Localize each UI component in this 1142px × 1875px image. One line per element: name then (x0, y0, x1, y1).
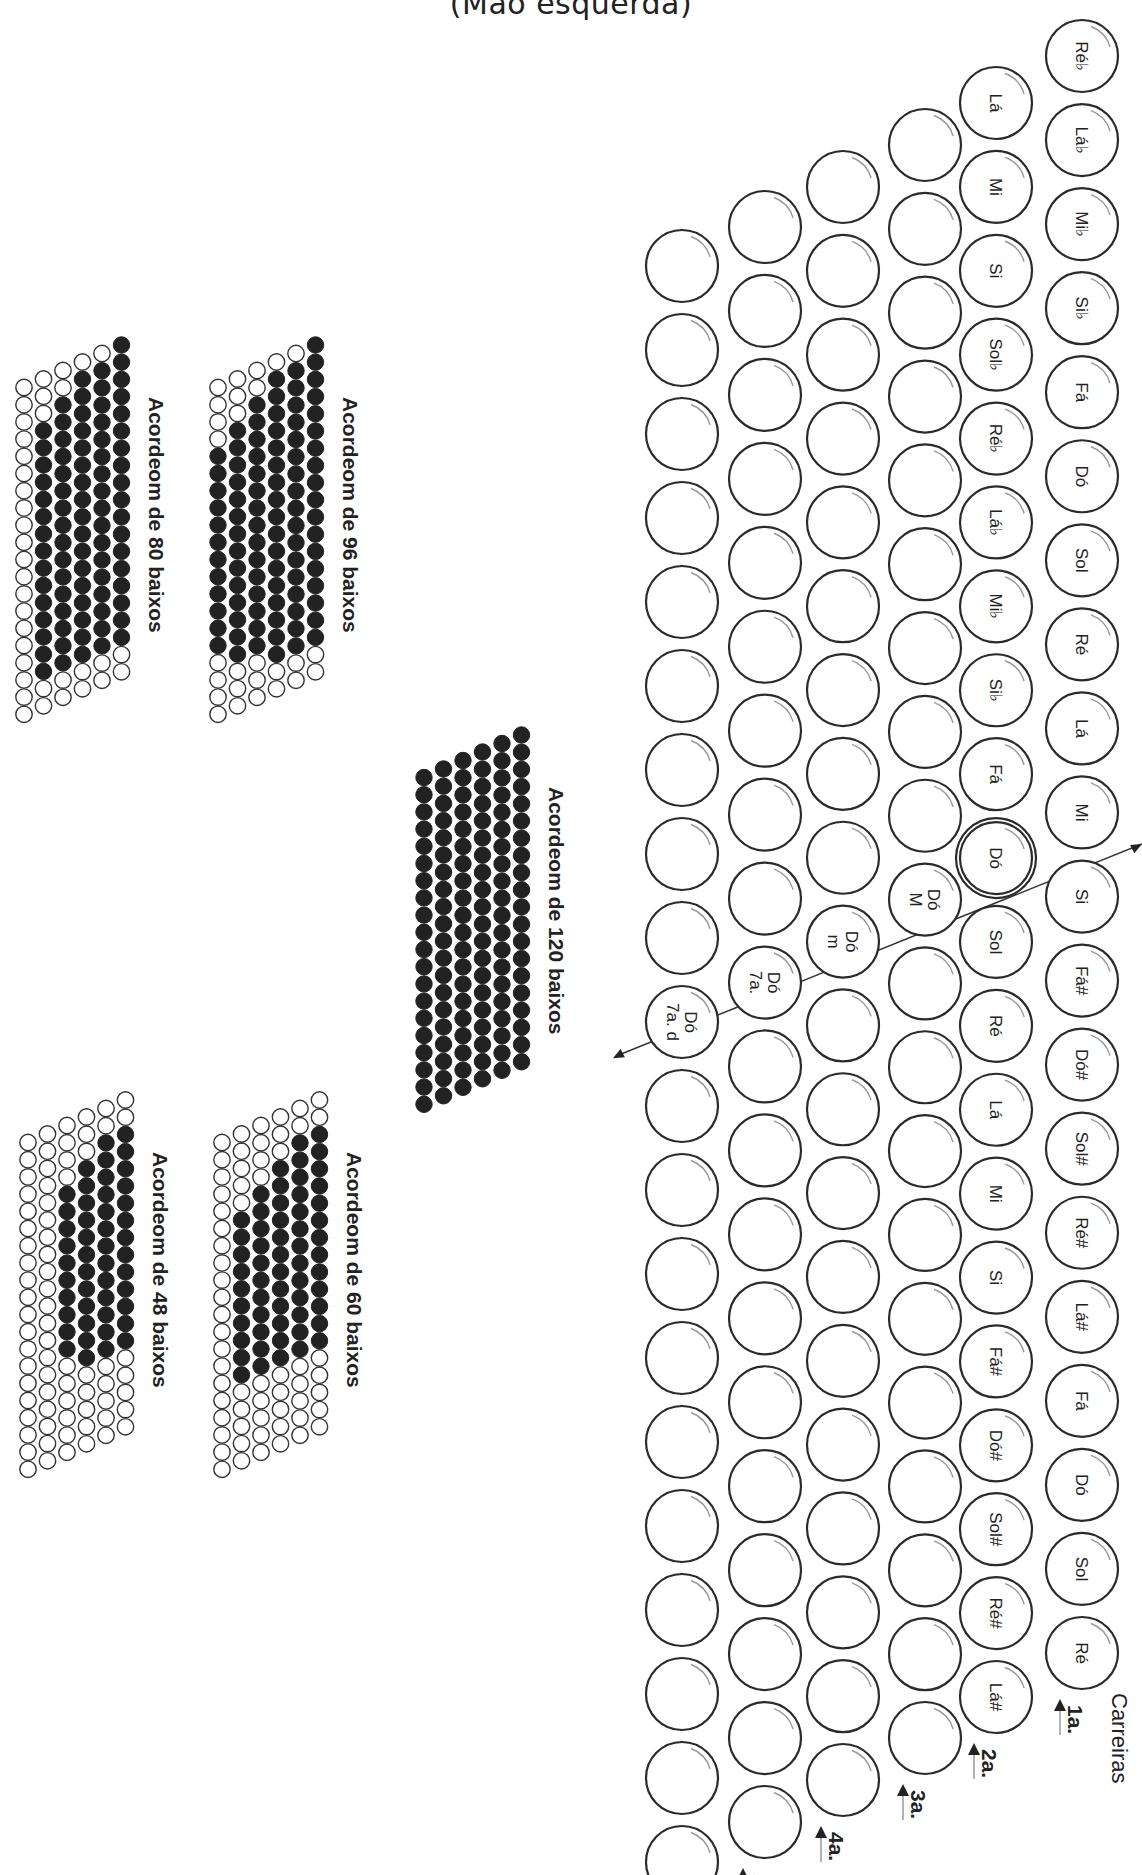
bass-button[interactable]: DóM (889, 864, 961, 936)
bass-button[interactable]: Fá (1046, 1365, 1118, 1437)
bass-button[interactable] (729, 611, 801, 683)
bass-button[interactable] (807, 486, 879, 558)
bass-button[interactable] (807, 822, 879, 894)
bass-button[interactable]: Lá (960, 67, 1032, 139)
bass-button[interactable] (807, 738, 879, 810)
bass-button[interactable]: Mi (960, 1158, 1032, 1230)
bass-button[interactable] (729, 1534, 801, 1606)
bass-button[interactable]: Fá (960, 738, 1032, 810)
bass-button[interactable] (889, 1450, 961, 1522)
bass-button[interactable] (646, 650, 718, 722)
bass-button[interactable] (889, 1283, 961, 1355)
bass-button[interactable] (729, 1450, 801, 1522)
bass-button[interactable] (889, 947, 961, 1019)
bass-button[interactable] (807, 235, 879, 307)
bass-button[interactable]: Fá# (960, 1325, 1032, 1397)
bass-button[interactable] (807, 151, 879, 223)
bass-button[interactable]: Lá♭ (960, 486, 1032, 558)
bass-button[interactable]: Lá# (960, 1661, 1032, 1733)
bass-button[interactable] (646, 1574, 718, 1646)
bass-button[interactable] (807, 1744, 879, 1816)
bass-button[interactable] (889, 1115, 961, 1187)
bass-button[interactable]: Si (960, 235, 1032, 307)
bass-button[interactable]: Mi (960, 151, 1032, 223)
bass-button[interactable]: Ré♭ (1046, 20, 1118, 92)
bass-button[interactable]: Dó7a. d (646, 986, 718, 1058)
bass-button[interactable] (889, 780, 961, 852)
bass-button[interactable] (729, 443, 801, 515)
bass-button[interactable]: Fá# (1046, 945, 1118, 1017)
bass-button[interactable] (646, 398, 718, 470)
bass-button[interactable] (807, 989, 879, 1061)
bass-button[interactable] (729, 863, 801, 935)
bass-button[interactable]: Ré# (960, 1577, 1032, 1649)
bass-button[interactable] (646, 230, 718, 302)
bass-button[interactable] (807, 1660, 879, 1732)
bass-button[interactable] (646, 314, 718, 386)
bass-button[interactable]: Lá (960, 1074, 1032, 1146)
bass-button[interactable] (729, 1366, 801, 1438)
bass-button[interactable]: Dó# (1046, 1029, 1118, 1101)
bass-button[interactable] (889, 1618, 961, 1690)
bass-button[interactable] (807, 654, 879, 726)
bass-button[interactable] (889, 1199, 961, 1271)
bass-button[interactable] (646, 734, 718, 806)
bass-button[interactable]: Dó (956, 818, 1036, 898)
bass-button[interactable]: Dó (1046, 440, 1118, 512)
bass-button[interactable]: Mi♭ (960, 570, 1032, 642)
bass-button[interactable] (889, 193, 961, 265)
bass-button[interactable] (729, 779, 801, 851)
bass-button[interactable] (646, 902, 718, 974)
bass-button[interactable] (729, 1282, 801, 1354)
bass-button[interactable] (889, 1367, 961, 1439)
bass-button[interactable]: Lá (1046, 692, 1118, 764)
bass-button[interactable] (646, 1154, 718, 1226)
bass-button[interactable] (729, 275, 801, 347)
bass-button[interactable] (646, 1742, 718, 1814)
bass-button[interactable] (646, 1658, 718, 1730)
bass-button[interactable]: Dóm (807, 906, 879, 978)
bass-button[interactable] (729, 1198, 801, 1270)
bass-button[interactable] (807, 1492, 879, 1564)
bass-button[interactable] (646, 1238, 718, 1310)
bass-button[interactable]: Sol (1046, 1533, 1118, 1605)
bass-button[interactable]: Dó (1046, 1449, 1118, 1521)
bass-button[interactable]: Ré# (1046, 1197, 1118, 1269)
bass-button[interactable]: Lá# (1046, 1281, 1118, 1353)
bass-button[interactable]: Ré (960, 990, 1032, 1062)
bass-button[interactable] (729, 359, 801, 431)
bass-button[interactable] (646, 1070, 718, 1142)
bass-button[interactable]: Sol# (960, 1493, 1032, 1565)
bass-button[interactable]: Mi♭ (1046, 188, 1118, 260)
bass-button[interactable] (807, 319, 879, 391)
bass-button[interactable] (807, 403, 879, 475)
bass-button[interactable]: Si (1046, 861, 1118, 933)
bass-button[interactable]: Sol (1046, 524, 1118, 596)
bass-button[interactable] (889, 1702, 961, 1774)
bass-button[interactable] (729, 1114, 801, 1186)
bass-button[interactable] (807, 1576, 879, 1648)
bass-button[interactable]: Ré (1046, 1617, 1118, 1689)
bass-button[interactable] (729, 1702, 801, 1774)
bass-button[interactable]: Si♭ (1046, 272, 1118, 344)
bass-button[interactable] (646, 566, 718, 638)
bass-button[interactable] (646, 818, 718, 890)
bass-button[interactable] (889, 277, 961, 349)
bass-button[interactable] (729, 695, 801, 767)
bass-button[interactable]: Mi (1046, 776, 1118, 848)
bass-button[interactable] (889, 109, 961, 181)
bass-button[interactable]: Ré♭ (960, 403, 1032, 475)
bass-button[interactable] (889, 444, 961, 516)
bass-button[interactable]: Si (960, 1242, 1032, 1314)
bass-button[interactable] (889, 361, 961, 433)
bass-button[interactable] (807, 1073, 879, 1145)
bass-button[interactable]: Si♭ (960, 654, 1032, 726)
bass-button[interactable]: Fá (1046, 356, 1118, 428)
bass-button[interactable] (807, 1325, 879, 1397)
bass-button[interactable]: Lá♭ (1046, 104, 1118, 176)
bass-button[interactable] (729, 1618, 801, 1690)
bass-button[interactable] (646, 1406, 718, 1478)
bass-button[interactable] (729, 1786, 801, 1858)
bass-button[interactable]: Sol# (1046, 1113, 1118, 1185)
bass-button[interactable] (646, 1490, 718, 1562)
